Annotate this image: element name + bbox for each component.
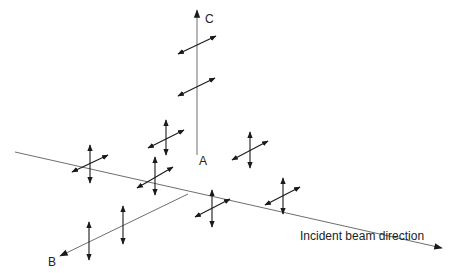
b-axis-label: B [48,256,56,268]
c-axis-label: C [205,13,214,25]
polarization-diagram: C A B Incident beam direction [0,0,458,273]
incident-beam-direction-label: Incident beam direction [300,230,424,242]
polarization-marker-upper-cross [148,120,184,155]
origin-a-label: A [199,155,207,167]
polarization-marker-lower-cross [195,190,230,227]
polarization-marker-beam-cross-1 [72,145,108,183]
b-axis [60,194,188,256]
polarization-marker-beam-cross-3 [265,178,300,214]
axes-group [15,10,442,256]
polarization-marker-beam-cross-2 [137,157,173,195]
polarization-marker-right-cross [232,132,268,168]
polarization-markers-group [72,36,300,260]
